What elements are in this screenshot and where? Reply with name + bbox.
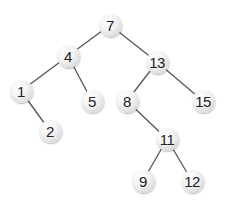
tree-node-15: 15 — [192, 90, 215, 113]
tree-node-12: 12 — [181, 170, 204, 193]
tree-node-9: 9 — [132, 170, 155, 193]
tree-node-5: 5 — [81, 90, 104, 113]
tree-node-1: 1 — [10, 80, 33, 103]
tree-node-11: 11 — [156, 128, 179, 151]
tree-node-4: 4 — [57, 45, 80, 68]
tree-node-7: 7 — [99, 14, 122, 37]
tree-diagram: 7 4 13 1 5 8 15 2 11 9 12 — [0, 0, 226, 205]
tree-node-8: 8 — [116, 90, 139, 113]
tree-node-13: 13 — [146, 51, 169, 74]
tree-node-2: 2 — [39, 120, 62, 143]
